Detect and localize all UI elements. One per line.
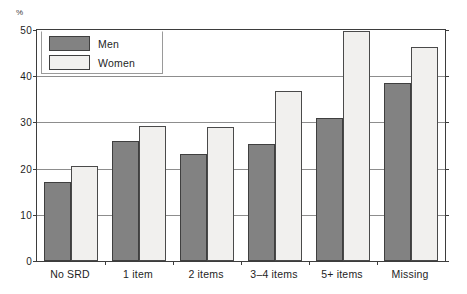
y-tick-label-0: 0 (26, 256, 32, 267)
y-tick-mark-10 (445, 215, 449, 216)
x-tick-mark-3 (241, 261, 242, 265)
y-tick-mark-0 (33, 261, 37, 262)
bar-women-3 (275, 91, 302, 261)
x-axis-label-3: 3–4 items (250, 268, 297, 280)
y-tick-label-40: 40 (20, 71, 32, 82)
y-tick-label-10: 10 (20, 209, 32, 220)
x-tick-mark-5 (377, 261, 378, 265)
x-axis-label-4: 5+ items (321, 268, 363, 280)
legend-entry-men: Men (49, 36, 119, 51)
bar-men-0 (44, 182, 71, 261)
y-tick-mark-10 (33, 215, 37, 216)
y-tick-mark-20 (445, 169, 449, 170)
legend-swatch-women (49, 55, 90, 70)
legend-entry-women: Women (49, 55, 135, 70)
legend-swatch-men (49, 36, 90, 51)
legend-label-women: Women (98, 57, 135, 69)
chart-legend: Men Women (41, 31, 163, 74)
cropped-figure-title (0, 0, 467, 3)
x-axis-label-1: 1 item (123, 268, 153, 280)
x-tick-mark-2 (173, 261, 174, 265)
bar-women-0 (71, 166, 98, 261)
bar-men-1 (112, 141, 139, 261)
y-tick-mark-40 (445, 76, 449, 77)
bar-men-5 (384, 83, 411, 261)
bar-women-1 (139, 126, 166, 261)
y-tick-mark-50 (33, 30, 37, 31)
x-axis-label-5: Missing (392, 268, 429, 280)
y-tick-label-20: 20 (20, 163, 32, 174)
bar-women-4 (343, 31, 370, 261)
legend-label-men: Men (98, 38, 119, 50)
bar-women-2 (207, 127, 234, 261)
x-axis-label-2: 2 items (188, 268, 223, 280)
y-tick-mark-30 (445, 122, 449, 123)
y-tick-mark-0 (445, 261, 449, 262)
y-tick-mark-40 (33, 76, 37, 77)
x-tick-mark-4 (309, 261, 310, 265)
y-tick-label-50: 50 (20, 25, 32, 36)
bar-men-2 (180, 154, 207, 261)
y-tick-mark-30 (33, 122, 37, 123)
bar-men-3 (248, 144, 275, 261)
y-tick-mark-50 (445, 30, 449, 31)
x-tick-mark-1 (105, 261, 106, 265)
x-axis-label-0: No SRD (50, 268, 90, 280)
y-tick-mark-20 (33, 169, 37, 170)
gridline-40 (37, 76, 445, 77)
y-axis-unit-label: % (16, 8, 23, 18)
bar-women-5 (411, 47, 438, 261)
bar-men-4 (316, 118, 343, 261)
y-tick-label-30: 30 (20, 117, 32, 128)
